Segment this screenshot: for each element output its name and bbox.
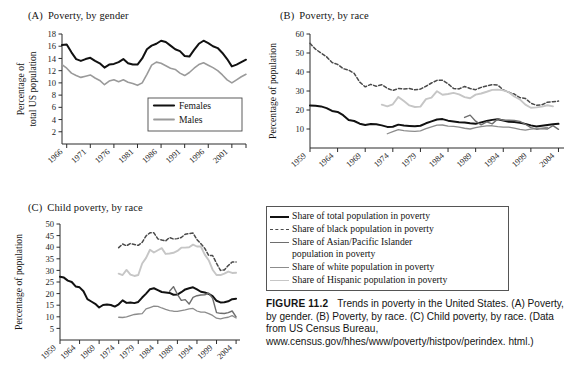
y-tick-label: 8 [52,90,56,100]
y-tick-label: 30 [295,86,304,96]
x-tick-label: 1974 [372,151,391,169]
x-tick-label: 1979 [118,343,136,361]
x-tick-label: 2004 [538,151,557,169]
series-line-4 [382,90,553,108]
y-tick-label: 5 [50,324,54,334]
x-tick-label: 1999 [510,151,528,169]
y-tick-label: 12 [47,66,56,76]
y-tick-label: 10 [295,124,304,134]
panel-a: (A)Poverty, by gender 246810121416181966… [0,0,262,196]
legend-item: Share of Asian/Pacific Islander populati… [268,236,505,261]
x-tick-label: 1984 [427,151,446,169]
y-tick-label: 14 [47,54,56,64]
x-tick-label: 1964 [317,151,336,169]
x-tick-label: 1994 [176,343,195,361]
x-tick-label: 1996 [188,147,206,165]
y-tick-label: 60 [295,29,304,39]
series-line-1 [310,43,558,105]
panel-b-label: (B) [280,10,294,21]
panel-a-title: (A)Poverty, by gender [28,10,129,21]
panel-b-title: (B)Poverty, by race [280,10,369,21]
y-tick-label: 20 [45,289,54,299]
caption-line-3: www.census.gov/hhes/www/poverty/histpov/… [266,336,506,347]
panel-b-plot: 1020304050601959196419691974197919841989… [262,26,579,186]
y-tick-label: 6 [52,102,57,112]
x-tick-label: 1964 [59,343,78,361]
x-tick-label: 1991 [164,147,182,165]
line-swatch-icon [268,236,290,249]
x-tick-label: 1969 [345,151,363,169]
series-line-0 [310,105,558,126]
y-tick-label: 25 [45,277,54,287]
y-tick-label: 10 [47,78,56,88]
y-tick-label: 15 [45,300,54,310]
legend-item-label: Share of black population in poverty [290,223,434,235]
x-tick-label: 1974 [98,343,117,361]
panel-c-label: (C) [28,202,42,213]
x-tick-label: 1981 [117,147,135,165]
y-axis-title: Percentage of population [267,43,278,139]
x-tick-label: 1994 [483,151,502,169]
shared-legend: Share of total population in povertyShar… [266,206,509,291]
legend-item: Share of total population in poverty [268,210,505,223]
x-tick-label: 1999 [196,343,214,361]
figure-caption: FIGURE 11.2Trends in poverty in the Unit… [266,298,566,348]
panel-c-plot: 5101520253035404550195919641969197419791… [0,218,262,383]
line-swatch-icon [268,274,290,287]
legend-item-label: Share of total population in poverty [290,210,430,222]
y-tick-label: 50 [45,219,54,229]
x-tick-label: 1959 [39,343,57,361]
x-tick-label: 1969 [78,343,96,361]
legend-item: Share of white population in poverty [268,261,505,274]
series-line-0 [60,277,236,308]
x-tick-label: 1986 [140,147,158,165]
figure-container: (A)Poverty, by gender 246810121416181966… [0,0,579,391]
legend-label: Males [179,114,203,125]
y-tick-label: 20 [295,105,304,115]
y-tick-label: 2 [52,127,56,137]
caption-line-4: html.) [508,336,533,347]
legend-item-label: Share of Hispanic population in poverty [290,274,447,286]
line-swatch-icon [268,210,290,223]
caption-line-0: Trends in poverty in the United States. [337,298,508,309]
y-tick-label: 18 [47,29,56,39]
panel-c: (C)Child poverty, by race 51015202530354… [0,196,262,391]
series-line-4 [119,245,236,276]
figure-number: FIGURE 11.2 [266,298,328,309]
x-tick-label: 1989 [455,151,473,169]
panel-c-title-text: Child poverty, by race [47,202,142,213]
line-swatch-icon [268,261,290,274]
x-tick-label: 1959 [289,151,307,169]
panel-b: (B)Poverty, by race 10203040506019591964… [262,0,579,196]
shared-legend-rows: Share of total population in povertyShar… [268,210,505,287]
x-tick-label: 1984 [137,343,156,361]
y-axis-title: Percentage of population [13,234,24,330]
y-tick-label: 40 [45,242,54,252]
series-line-1 [62,62,246,85]
dashed-line-swatch-icon [268,223,290,236]
panel-c-title: (C)Child poverty, by race [28,202,143,213]
y-axis-title: Percentage of [15,62,26,115]
y-tick-label: 30 [45,266,54,276]
legend-label: Females [179,100,211,111]
y-tick-label: 40 [295,67,304,77]
y-tick-label: 35 [45,254,54,264]
x-tick-label: 1979 [400,151,418,169]
x-tick-label: 1989 [157,343,175,361]
x-tick-label: 2001 [211,147,229,165]
x-tick-label: 2004 [215,343,234,361]
x-tick-label: 1966 [46,147,64,165]
y-tick-label: 16 [47,41,56,51]
y-tick-label: 4 [52,115,57,125]
y-axis-title: total US population [27,51,38,126]
y-tick-label: 50 [295,48,304,58]
x-tick-label: 1971 [70,147,88,165]
x-tick-label: 1976 [93,147,111,165]
legend-item: Share of Hispanic population in poverty [268,274,505,287]
y-tick-label: 10 [45,312,54,322]
panel-b-title-text: Poverty, by race [299,10,368,21]
y-tick-label: 45 [45,231,54,241]
panel-a-title-text: Poverty, by gender [48,10,129,21]
legend-item-label: Share of Asian/Pacific Islander populati… [290,236,412,261]
panel-a-label: (A) [28,10,43,21]
